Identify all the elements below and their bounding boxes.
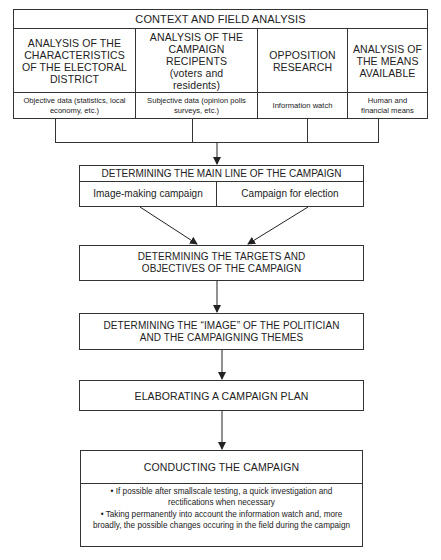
arrow-election-to-targets xyxy=(248,207,308,244)
flow-arrows xyxy=(0,0,441,560)
arrow-image-making-to-targets xyxy=(140,207,197,244)
